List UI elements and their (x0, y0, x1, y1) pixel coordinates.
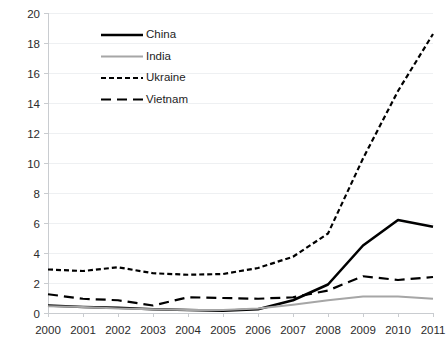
y-tick-label: 8 (34, 188, 40, 200)
x-tick-label: 2005 (210, 324, 236, 336)
x-tick-label: 2003 (140, 324, 166, 336)
legend-label-vietnam: Vietnam (146, 93, 188, 105)
legend-label-india: India (146, 50, 172, 62)
y-tick-label: 18 (27, 38, 40, 50)
legend-label-china: China (146, 28, 177, 40)
y-tick-label: 10 (27, 158, 40, 170)
y-tick-label: 4 (34, 248, 41, 260)
x-tick-label: 2006 (245, 324, 271, 336)
x-tick-label: 2010 (385, 324, 411, 336)
y-tick-label: 16 (27, 68, 40, 80)
x-tick-label: 2007 (280, 324, 306, 336)
x-tick-label: 2004 (175, 324, 201, 336)
y-tick-label: 0 (34, 308, 40, 320)
x-tick-label: 2001 (70, 324, 96, 336)
x-tick-label: 2008 (315, 324, 341, 336)
chart-container: 02468101214161820 2000200120022003200420… (0, 0, 447, 347)
x-tick-label: 2002 (105, 324, 131, 336)
y-tick-label: 6 (34, 218, 40, 230)
y-tick-label: 20 (27, 8, 40, 20)
x-tick-label: 2000 (35, 324, 61, 336)
y-tick-label: 2 (34, 278, 40, 290)
chart-background (0, 0, 447, 347)
legend-label-ukraine: Ukraine (146, 71, 186, 83)
y-tick-label: 14 (27, 98, 40, 110)
y-tick-label: 12 (27, 128, 40, 140)
line-chart: 02468101214161820 2000200120022003200420… (0, 0, 447, 347)
x-tick-label: 2011 (421, 324, 446, 336)
x-tick-label: 2009 (350, 324, 376, 336)
